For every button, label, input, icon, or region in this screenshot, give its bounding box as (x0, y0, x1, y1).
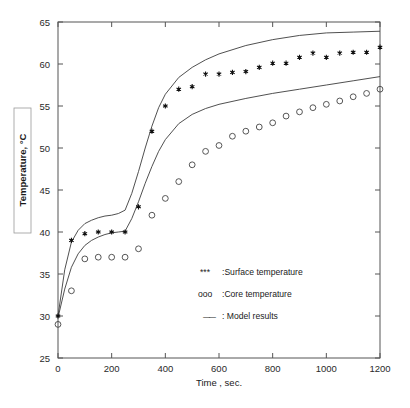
legend-symbol-core: ooo (198, 289, 213, 299)
x-tick-label: 400 (157, 363, 173, 374)
x-axis-title: Time , sec. (196, 377, 242, 388)
x-tick-label: 1000 (316, 363, 337, 374)
y-tick-label: 30 (39, 311, 50, 322)
y-tick-label: 55 (39, 101, 50, 112)
y-tick-label: 50 (39, 143, 50, 154)
legend-label-surface: :Surface temperature (222, 267, 303, 277)
x-tick-label: 600 (211, 363, 227, 374)
legend-symbol-surface: *** (200, 267, 211, 277)
legend-label-core: :Core temperature (222, 289, 292, 299)
x-tick-label: 0 (55, 363, 60, 374)
y-tick-label: 40 (39, 227, 50, 238)
x-tick-label: 800 (265, 363, 281, 374)
legend-symbol-model: —— (203, 313, 216, 320)
y-tick-label: 25 (39, 353, 50, 364)
y-tick-label: 35 (39, 269, 50, 280)
chart-background (0, 0, 410, 408)
y-tick-label: 65 (39, 17, 50, 28)
y-tick-label: 45 (39, 185, 50, 196)
x-tick-label: 1200 (369, 363, 390, 374)
chart-figure: 020040060080010001200 253035404550556065… (0, 0, 410, 408)
y-axis-title: Temperature, °C (17, 133, 28, 206)
temperature-vs-time-chart: 020040060080010001200 253035404550556065… (0, 0, 410, 408)
x-tick-label: 200 (104, 363, 120, 374)
y-tick-label: 60 (39, 59, 50, 70)
legend-label-model: : Model results (222, 311, 278, 321)
